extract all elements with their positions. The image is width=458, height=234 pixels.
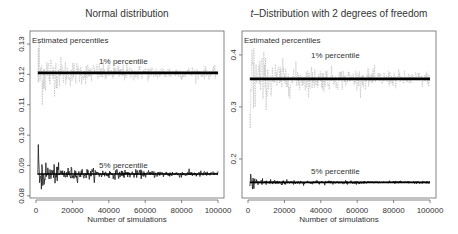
chart-canvas: Normal distribution1% percentile5% perce… [0,0,458,234]
x-tick-label: 0 [246,206,251,215]
series-label: 5% percentile [99,161,148,170]
y-axis: 0.080.090.100.110.120.13 [17,36,30,204]
x-tick-label: 100000 [417,206,444,215]
estimated-percentiles-label: Estimated percentiles [32,36,108,45]
y-tick-label: 0.3 [229,101,238,113]
x-tick-label: 100000 [205,206,232,215]
y-tick-label: 0.11 [17,97,26,113]
figure: Normal distribution1% percentile5% perce… [0,0,458,234]
chart-title: t–Distribution with 2 degrees of freedom [251,8,428,19]
y-tick-label: 0.13 [17,36,26,52]
x-tick-label: 20000 [273,206,296,215]
y-tick-label: 0.10 [17,127,26,143]
x-tick-label: 20000 [61,206,84,215]
series-label: 5% percentile [311,167,360,176]
series-5-percentile: 5% percentile [38,145,218,190]
series-label: 1% percentile [311,51,360,60]
x-tick-label: 60000 [134,206,157,215]
series-label: 1% percentile [99,57,148,66]
series-1-percentile: 1% percentile [38,42,218,105]
y-tick-label: 0.09 [17,157,26,173]
y-tick-label: 0.2 [229,153,238,165]
x-tick-label: 40000 [310,206,333,215]
panel-t-distribution: t–Distribution with 2 degrees of freedom… [229,8,444,224]
y-tick-label: 0.4 [229,49,238,61]
series-1-percentile: 1% percentile [250,48,430,128]
estimated-percentiles-label: Estimated percentiles [244,36,320,45]
panel-normal-distribution: Normal distribution1% percentile5% perce… [17,8,232,224]
x-tick-label: 80000 [170,206,193,215]
x-tick-label: 80000 [382,206,405,215]
x-tick-label: 0 [34,206,39,215]
title-text: –Distribution with 2 degrees of freedom [253,8,427,19]
x-axis-title: Number of simulations [299,215,379,224]
y-axis: 0.20.30.4 [229,49,242,165]
y-tick-label: 0.12 [17,66,26,82]
x-tick-label: 60000 [346,206,369,215]
simulation-trace [250,48,430,128]
y-tick-label: 0.08 [17,188,26,204]
x-axis-title: Number of simulations [87,215,167,224]
series-5-percentile: 5% percentile [250,167,430,190]
x-axis: 020000400006000080000100000Number of sim… [34,200,232,224]
x-tick-label: 40000 [98,206,121,215]
chart-title: Normal distribution [85,8,168,19]
x-axis: 020000400006000080000100000Number of sim… [246,200,444,224]
